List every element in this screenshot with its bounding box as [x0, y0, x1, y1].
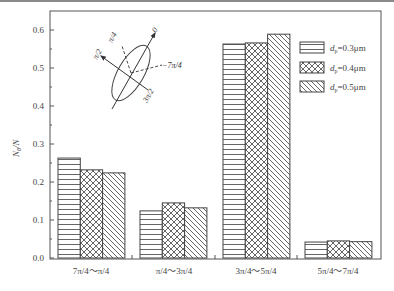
bar [223, 44, 245, 258]
bar [58, 158, 80, 258]
bar [245, 43, 267, 258]
label-pi2: π/2 [91, 48, 104, 61]
bar [350, 242, 372, 258]
y-tick-label: 0.3 [33, 139, 45, 149]
legend-label: dp=0.4μm [330, 63, 366, 74]
legend-swatch [300, 42, 324, 53]
x-category-label: 3π/4～5π/4 [235, 266, 277, 276]
y-axis-label: Nθ/N [11, 139, 22, 158]
bar [140, 211, 162, 258]
y-axis: 0.00.10.20.30.40.50.6 [33, 25, 54, 263]
pi4-dashed-line [122, 46, 131, 73]
legend: dp=0.3μmdp=0.4μmdp=0.5μm [300, 42, 366, 93]
bar [162, 203, 184, 258]
y-tick-label: 0.2 [33, 177, 44, 187]
y-tick-label: 0.1 [33, 215, 44, 225]
y-tick-label: 0.0 [33, 253, 45, 263]
label-pi4: π/4 [106, 31, 119, 44]
x-axis-labels: 7π/4～π/4π/4～3π/43π/4～5π/45π/4～7π/4 [73, 266, 359, 276]
bar [305, 242, 327, 258]
x-category-label: 5π/4～7π/4 [317, 266, 359, 276]
bar [327, 241, 349, 258]
x-category-label: 7π/4～π/4 [73, 266, 110, 276]
minor-axis-arrow-icon [101, 56, 148, 90]
bar [268, 34, 290, 258]
legend-swatch [300, 81, 324, 92]
bar [103, 173, 125, 258]
label-zero: 0 [150, 26, 160, 34]
legend-label: dp=0.5μm [330, 82, 366, 93]
label-minus7pi4: −7π/4 [162, 61, 182, 70]
bar-chart: 0.00.10.20.30.40.50.6 7π/4～π/4π/4～3π/43π… [0, 0, 394, 291]
angle-diagram: 0 π/4 π/2 3π/2 −7π/4 [91, 26, 182, 109]
legend-swatch [300, 62, 324, 73]
y-tick-label: 0.5 [33, 63, 45, 73]
y-tick-label: 0.6 [33, 25, 45, 35]
label-3pi2: 3π/2 [140, 87, 155, 105]
x-category-label: π/4～3π/4 [156, 266, 193, 276]
legend-label: dp=0.3μm [330, 43, 366, 54]
bar [185, 208, 207, 258]
y-tick-label: 0.4 [33, 101, 45, 111]
bar [80, 170, 102, 258]
bars [58, 34, 372, 258]
